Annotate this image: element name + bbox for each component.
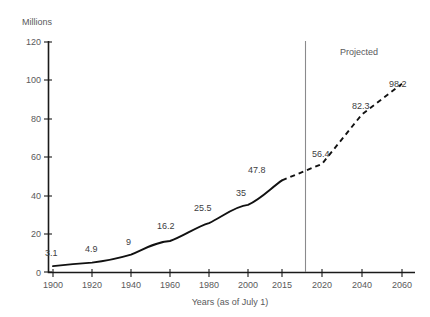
data-label-2015: 47.8: [248, 165, 266, 175]
y-tick-label-40: 40: [31, 191, 41, 201]
x-tick-label-2020: 2020: [312, 280, 332, 290]
axis-lines: [49, 41, 416, 273]
y-tick-label-120: 120: [26, 37, 41, 47]
x-axis-title: Years (as of July 1): [192, 297, 269, 307]
series-projected-line: [282, 84, 402, 181]
x-tick-label-2060: 2060: [392, 280, 412, 290]
data-label-2040: 82.3: [352, 101, 370, 111]
data-label-1900: 3.1: [45, 248, 58, 258]
data-label-1920: 4.9: [85, 244, 98, 254]
y-tick-label-0: 0: [36, 268, 41, 278]
x-tick-label-1900: 1900: [43, 280, 63, 290]
chart-container: Millions 120 100 80 60 40 20 0: [0, 0, 430, 317]
y-axis-tick-labels: 120 100 80 60 40 20 0: [26, 37, 41, 278]
x-axis-tick-labels: 1900 1920 1940 1960 1980 2000 2015 2020 …: [43, 280, 412, 290]
y-tick-label-100: 100: [26, 75, 41, 85]
x-tick-label-1920: 1920: [82, 280, 102, 290]
y-tick-label-80: 80: [31, 114, 41, 124]
data-label-2060: 98.2: [389, 79, 407, 89]
x-tick-label-1960: 1960: [160, 280, 180, 290]
y-tick-label-60: 60: [31, 152, 41, 162]
data-point-labels: 3.1 4.9 9 16.2 25.5 35 47.8 56.4 82.3 98…: [45, 79, 407, 258]
x-tick-label-2000: 2000: [238, 280, 258, 290]
x-tick-label-2015: 2015: [272, 280, 292, 290]
data-label-1940: 9: [126, 237, 131, 247]
data-label-1960: 16.2: [157, 221, 175, 231]
data-label-2020: 56.4: [312, 149, 330, 159]
y-axis-unit-label: Millions: [22, 17, 53, 27]
y-tick-label-20: 20: [31, 229, 41, 239]
data-label-1980: 25.5: [194, 203, 212, 213]
x-tick-label-1980: 1980: [199, 280, 219, 290]
data-label-2000: 35: [236, 188, 246, 198]
x-tick-label-2040: 2040: [352, 280, 372, 290]
projected-annotation-label: Projected: [340, 47, 378, 57]
population-line-chart: Millions 120 100 80 60 40 20 0: [0, 0, 430, 317]
x-tick-label-1940: 1940: [121, 280, 141, 290]
